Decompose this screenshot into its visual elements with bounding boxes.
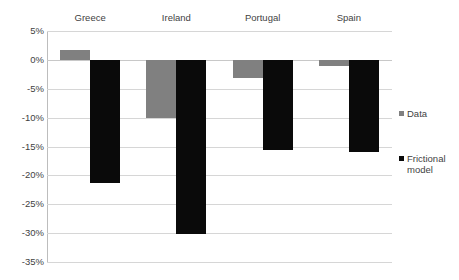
bar-spain-frictional-model <box>349 60 379 152</box>
bar-ireland-data <box>146 60 176 118</box>
bar-portugal-data <box>233 60 263 78</box>
category-label-greece: Greece <box>47 11 133 24</box>
category-label-ireland: Ireland <box>133 11 219 24</box>
y-tick-label-neg35: -35% <box>0 257 44 267</box>
bar-ireland-frictional-model <box>176 60 206 234</box>
y-tick-label-neg10: -10% <box>0 113 44 123</box>
gridline-5 <box>47 31 392 32</box>
category-label-portugal: Portugal <box>220 11 306 24</box>
legend-label-frictional-model: Frictional model <box>407 153 457 175</box>
bar-chart: Greece Ireland Portugal Spain 5%0%-5%-10… <box>0 0 459 280</box>
y-tick-label-5: 5% <box>0 26 44 36</box>
y-tick-label-neg25: -25% <box>0 199 44 209</box>
bar-greece-frictional-model <box>90 60 120 183</box>
y-tick-label-neg30: -30% <box>0 228 44 238</box>
y-axis-tick-labels: 5%0%-5%-10%-15%-20%-25%-30%-35% <box>0 31 44 262</box>
legend-item-frictional-model: Frictional model <box>399 153 457 175</box>
y-tick-label-neg20: -20% <box>0 170 44 180</box>
y-tick-label-neg5: -5% <box>0 84 44 94</box>
legend-item-data: Data <box>399 108 427 119</box>
bar-spain-data <box>319 60 349 66</box>
gray-square-icon <box>399 111 404 116</box>
bar-portugal-frictional-model <box>263 60 293 150</box>
bar-greece-data <box>60 50 90 60</box>
legend-label-data: Data <box>407 108 427 119</box>
black-square-icon <box>399 156 404 161</box>
gridline-neg30 <box>47 233 392 234</box>
category-label-row: Greece Ireland Portugal Spain <box>47 11 392 26</box>
plot-area <box>47 31 392 262</box>
y-tick-label-neg15: -15% <box>0 142 44 152</box>
gridline-neg25 <box>47 204 392 205</box>
category-label-spain: Spain <box>306 11 392 24</box>
gridline-neg35 <box>47 262 392 263</box>
y-tick-label-0: 0% <box>0 55 44 65</box>
